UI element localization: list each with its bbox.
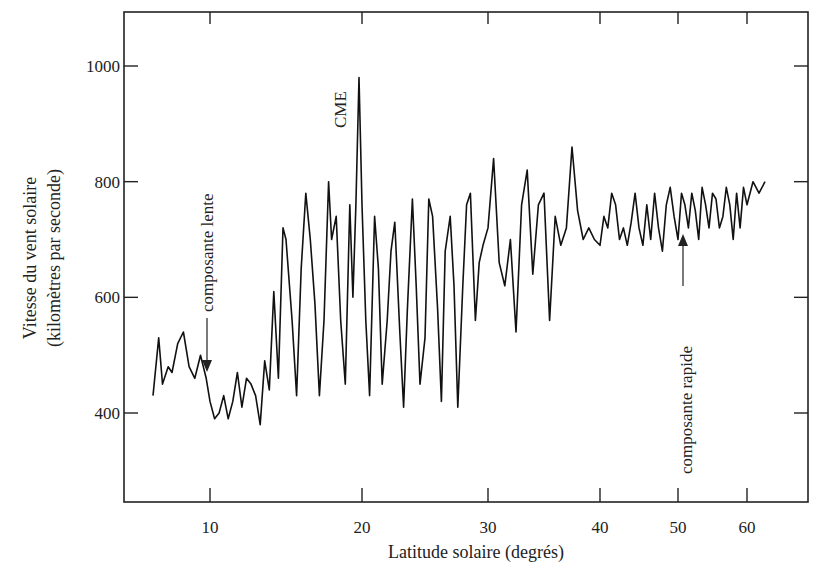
cme-label: CME [331, 91, 350, 128]
annotation-slow-component: composante lente [198, 194, 217, 373]
x-tick-label: 10 [202, 518, 219, 537]
slow-component-label: composante lente [198, 194, 217, 313]
x-tick-label: 40 [592, 518, 609, 537]
x-tick-label: 30 [480, 518, 497, 537]
arrow-up-icon [678, 234, 688, 246]
y-axis-title-line2: (kilomètres par seconde) [44, 169, 65, 347]
x-tick-label: 60 [739, 518, 756, 537]
solar-wind-chart: 4006008001000 102030405060 CME composant… [0, 0, 819, 578]
y-axis-title-line1: Vitesse du vent solaire [20, 177, 40, 339]
y-tick-label: 600 [95, 288, 121, 307]
x-tick-label: 20 [354, 518, 371, 537]
x-axis-title: Latitude solaire (degrés) [388, 542, 564, 563]
y-tick-label: 800 [95, 173, 121, 192]
plot-frame [124, 12, 808, 502]
y-tick-label: 1000 [86, 57, 120, 76]
y-tick-label: 400 [95, 404, 121, 423]
fast-component-label: composante rapide [677, 346, 696, 474]
x-tick-label: 50 [670, 518, 687, 537]
solar-wind-speed-trace [153, 78, 765, 425]
annotation-fast-component: composante rapide [677, 234, 696, 474]
annotation-cme: CME [331, 91, 350, 128]
